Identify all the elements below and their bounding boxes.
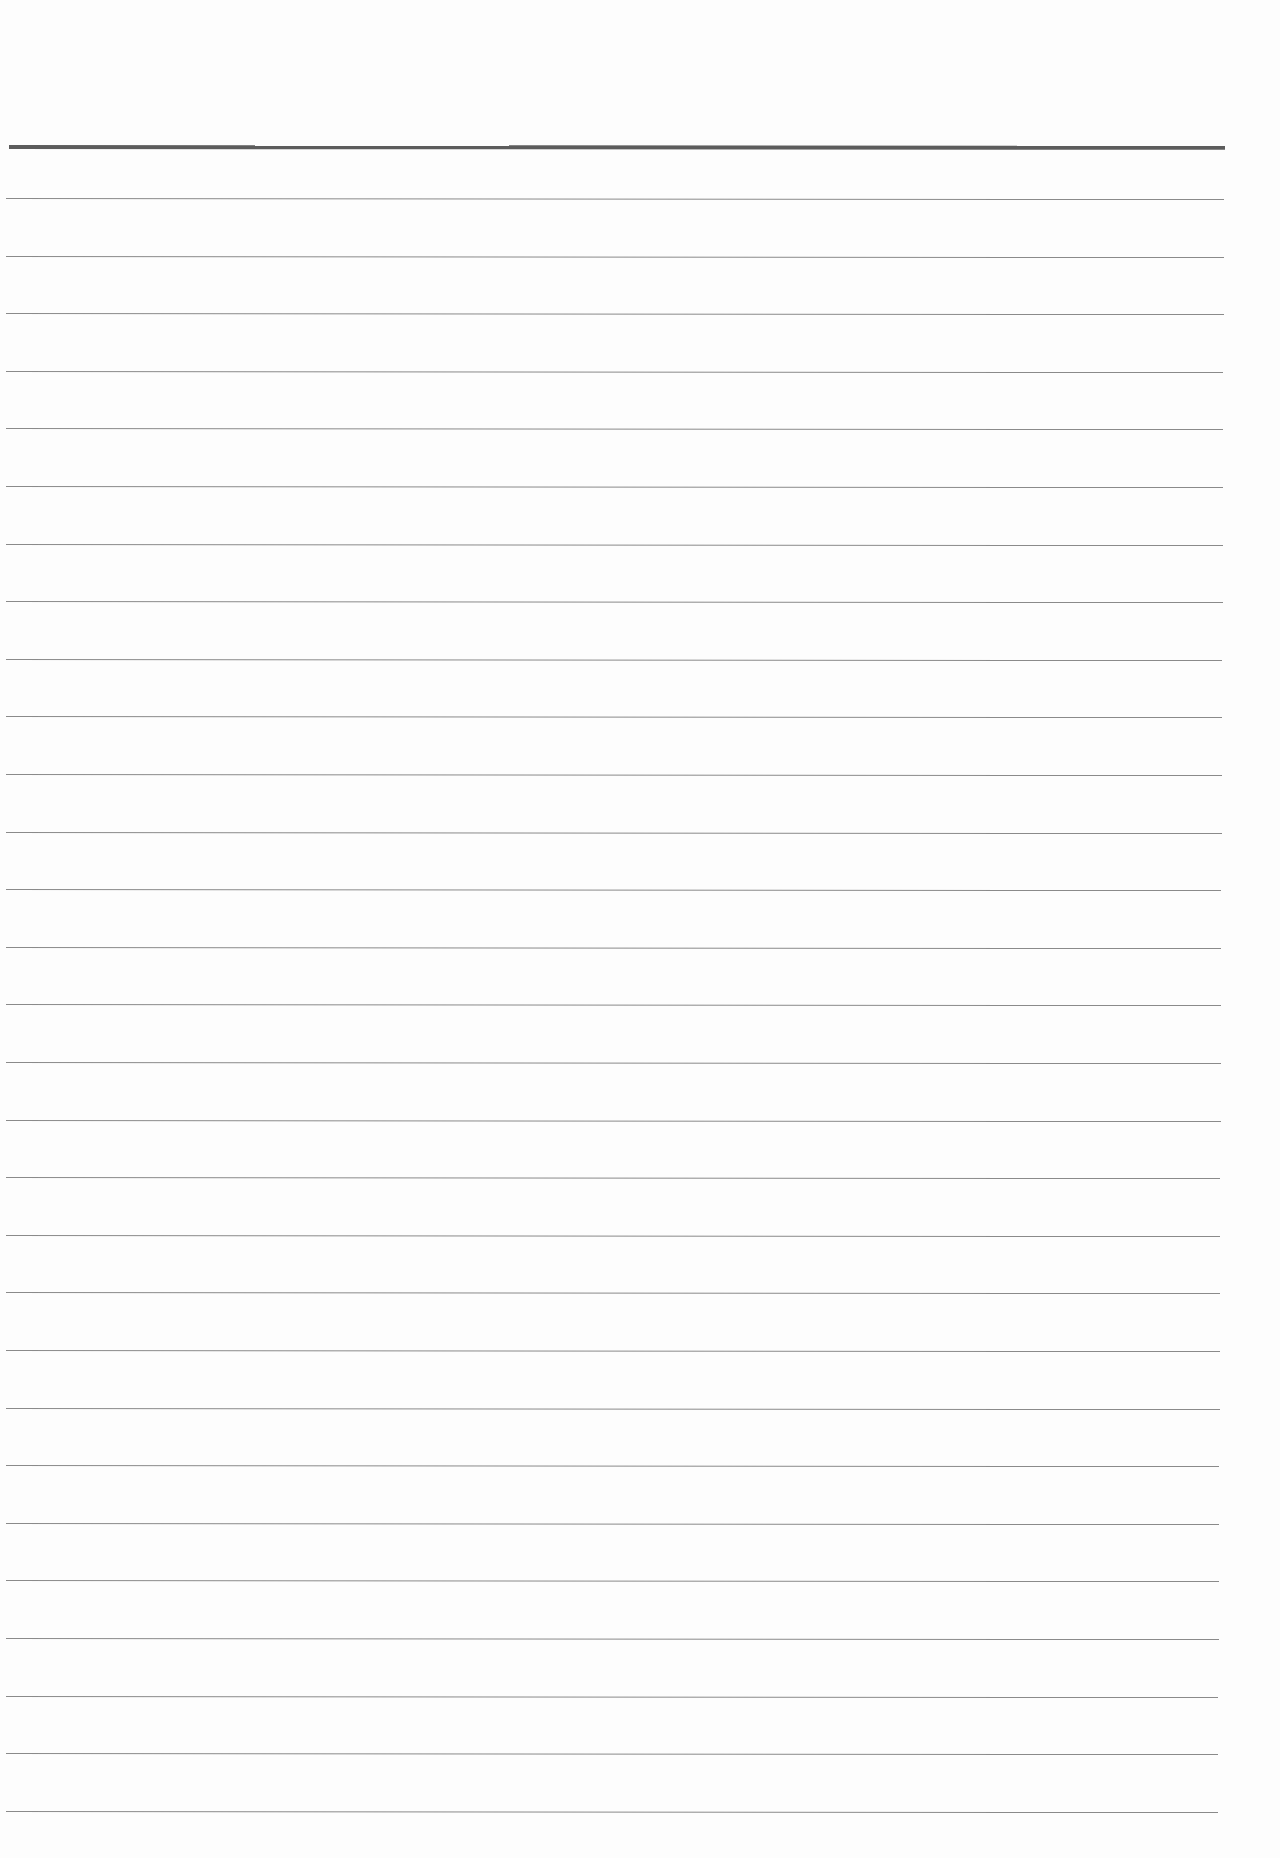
ruled-line (6, 198, 1224, 201)
ruled-line (6, 716, 1222, 719)
ruled-line (6, 544, 1223, 547)
ruled-line (6, 1408, 1220, 1411)
ruled-line (6, 1696, 1218, 1699)
ruled-line (6, 832, 1222, 835)
ruled-line (6, 1523, 1219, 1526)
ruled-line (6, 889, 1221, 892)
ruled-line (6, 601, 1223, 604)
ruled-line (6, 1580, 1219, 1583)
ruled-line (6, 1292, 1220, 1295)
ruled-line (6, 1811, 1218, 1814)
ruled-line (6, 486, 1223, 489)
ruled-line (6, 1465, 1219, 1468)
ruled-line (6, 1062, 1221, 1065)
ruled-line (6, 1235, 1220, 1238)
ruled-line (6, 1753, 1218, 1756)
ruled-line (6, 947, 1221, 950)
ruled-line (6, 1004, 1221, 1007)
ruled-line (6, 1350, 1220, 1353)
ruled-line (6, 428, 1223, 431)
ruled-line (6, 659, 1222, 662)
ruled-line (6, 1120, 1221, 1123)
ruled-sheet (0, 0, 1280, 1858)
ruled-line (6, 371, 1223, 374)
ruled-line (6, 256, 1224, 259)
ruled-line (6, 313, 1224, 316)
ruled-line (6, 774, 1222, 777)
ruled-line (6, 1638, 1219, 1641)
header-rule (9, 145, 1225, 150)
ruled-line (6, 1177, 1220, 1180)
